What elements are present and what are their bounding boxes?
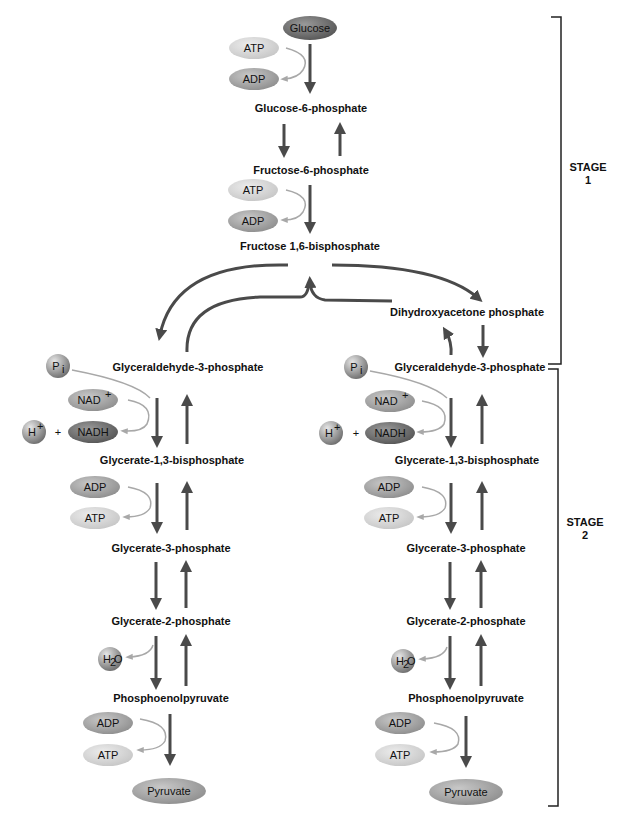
f16bp-to-dhap-arrow [332,265,478,298]
label-glycerate-2-phosphate-left: Glycerate-2-phosphate [111,615,230,627]
adp-pill-left-b: ADP [83,712,133,734]
stage1-atp_1-text: ATP [244,42,265,54]
atp-pill-1: ATP [229,37,279,59]
branches-1-pyruvate-text: Pyruvate [444,786,487,798]
branches-0-pi-text: P [52,360,59,372]
branches-0-atp_a-text: ATP [85,512,106,524]
label-glycerate-3-phosphate-right: Glycerate-3-phosphate [406,542,525,554]
stages-0-word-text: STAGE [569,161,606,173]
branches-0-nad_sup-text: + [105,388,111,400]
branches-0-atp_b-text: ATP [98,749,119,761]
nad-to-nadh-arrow-right [420,401,445,432]
stages-1-word-text: STAGE [566,516,603,528]
branches-0-adp_a-text: ADP [84,481,107,493]
h2o-ball-right: H 2 O [391,649,416,673]
label-phosphoenolpyruvate-right: Phosphoenolpyruvate [408,692,524,704]
branches-0-h2o_o-text: O [114,653,123,665]
label-glycerate-1-3-bisphosphate-left: Glycerate-1,3-bisphosphate [100,454,244,466]
nad-pill-left: NAD + [68,388,118,411]
branches-1-h_sup-text: + [334,421,340,433]
nadh-pill-left: NADH [68,421,118,443]
branches-1-adp_b-text: ADP [389,717,412,729]
pi-ball-left: P i [46,354,70,378]
branches-1-atp_b-text: ATP [390,749,411,761]
atp-pill-right-a: ATP [364,507,414,529]
branches-0-h_sup-text: + [37,420,43,432]
pyruvate-node-left: Pyruvate [132,778,206,804]
stage1-glucose-text: Glucose [290,22,330,34]
adp-pill-right-a: ADP [364,476,414,498]
label-glucose-6-phosphate: Glucose-6-phosphate [255,102,367,114]
f16bp-to-left-gap-arrow [160,265,288,335]
h2o-release-arrow-right [422,647,447,659]
stage-1-bracket: STAGE 1 [548,17,607,364]
label-fructose-6-phosphate: Fructose-6-phosphate [253,164,369,176]
branches-1-nad-text: NAD [374,395,397,407]
stage-2-bracket: STAGE 2 [548,369,604,806]
plus-sign-left: + [55,426,61,438]
adp-to-atp-arrow-right-b [433,723,459,752]
atp-pill-right-b: ATP [375,744,425,766]
label-fructose-1-6-bisphosphate: Fructose 1,6-bisphosphate [240,240,380,252]
adp-pill-right-b: ADP [375,712,425,734]
h-plus-ball-right: H + [319,421,343,445]
adp-pill-2: ADP [228,210,278,232]
dhap-to-f16bp-arrow [310,282,392,301]
left-gap-to-f16bp-arrow [187,282,309,352]
branches-0-nad-text: NAD [77,394,100,406]
label-glycerate-1-3-bisphosphate-right: Glycerate-1,3-bisphosphate [395,454,539,466]
stage-2-right-branch: Glyceraldehyde-3-phosphate P i NAD + H +… [319,355,546,805]
label-glycerate-2-phosphate-right: Glycerate-2-phosphate [406,615,525,627]
stage1-adp_2-text: ADP [242,215,265,227]
adp-pill-1: ADP [229,68,279,90]
stage-1-pathway: Glucose ATP ADP Glucose-6-phosphate Fruc… [160,16,544,355]
atp-pill-2: ATP [228,179,278,201]
label-glycerate-3-phosphate-left: Glycerate-3-phosphate [111,542,230,554]
adp-to-atp-arrow-right-a [420,487,446,517]
atp-pill-left-a: ATP [70,507,120,529]
nad-to-nadh-arrow-left [124,400,149,431]
stages-0-number-text: 1 [585,174,591,186]
pi-ball-right: P i [344,355,368,379]
branches-1-adp_a-text: ADP [378,481,401,493]
right-gap-to-dhap-arrow [446,332,451,355]
nadh-pill-right: NADH [365,422,415,444]
branches-1-pi-text: P [350,361,357,373]
adp-to-atp-arrow-left-a [126,487,151,517]
label-glyceraldehyde-3-phosphate-right: Glyceraldehyde-3-phosphate [395,361,546,373]
h-plus-ball-left: H + [22,420,46,444]
atp-to-adp-arrow-2 [284,190,305,220]
stage1-atp_2-text: ATP [243,184,264,196]
branches-1-pi_sub-text: i [360,364,362,376]
stage1-adp_1-text: ADP [243,73,266,85]
branches-1-nad_sup-text: + [402,389,408,401]
branches-0-pi_sub-text: i [62,363,64,375]
h2o-release-arrow-left [129,645,153,657]
h2o-ball-left: H 2 O [98,647,123,671]
branches-0-h-text: H [28,426,36,438]
plus-sign-right: + [353,427,359,439]
atp-to-adp-arrow-1 [284,48,305,79]
branches-0-nadh-text: NADH [77,426,108,438]
stages-1-number-text: 2 [582,529,588,541]
branches-0-pyruvate-text: Pyruvate [147,785,190,797]
glycolysis-diagram: Glucose ATP ADP Glucose-6-phosphate Fruc… [0,0,628,824]
label-glyceraldehyde-3-phosphate-left: Glyceraldehyde-3-phosphate [113,361,264,373]
branches-0-adp_b-text: ADP [97,717,120,729]
branches-1-nadh-text: NADH [374,427,405,439]
pyruvate-node-right: Pyruvate [429,779,503,805]
branches-1-h-text: H [325,427,333,439]
branches-1-h2o_o-text: O [407,655,416,667]
atp-pill-left-b: ATP [83,744,133,766]
branches-1-atp_a-text: ATP [379,512,400,524]
adp-pill-left-a: ADP [70,476,120,498]
label-phosphoenolpyruvate-left: Phosphoenolpyruvate [113,692,229,704]
adp-to-atp-arrow-left-b [140,719,166,750]
nad-pill-right: NAD + [365,389,415,412]
label-dihydroxyacetone-phosphate: Dihydroxyacetone phosphate [390,306,544,318]
stage-2-left-branch: Glyceraldehyde-3-phosphate P i NAD + H +… [22,354,264,804]
glucose-node: Glucose [283,16,337,40]
